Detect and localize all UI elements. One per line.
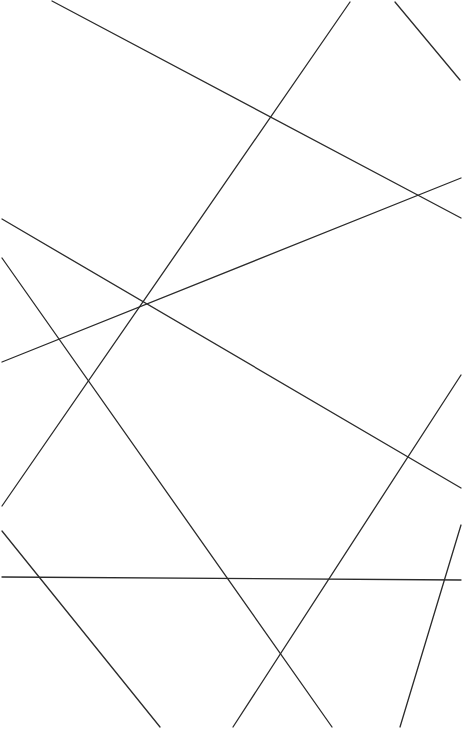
line-segment-2 xyxy=(2,2,350,506)
line-segment-7 xyxy=(233,375,461,727)
line-segment-4 xyxy=(2,219,461,488)
line-segment-10 xyxy=(400,525,461,727)
line-segment-5 xyxy=(2,178,461,362)
line-segment-9 xyxy=(2,577,461,580)
line-segment-6 xyxy=(2,258,332,727)
line-segment-1 xyxy=(52,1,461,218)
line-diagram-canvas xyxy=(0,0,463,729)
line-segments-group xyxy=(2,1,461,727)
line-segment-8 xyxy=(2,531,160,727)
line-segment-3 xyxy=(395,2,460,80)
